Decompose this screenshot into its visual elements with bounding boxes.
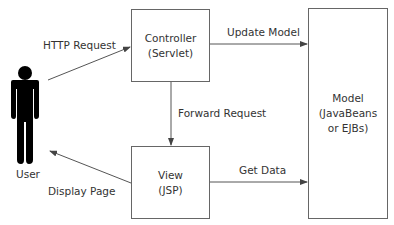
view-subtitle: (JSP) [158,183,183,198]
display-page-label: Display Page [48,185,115,197]
model-box: Model (JavaBeans or EJBs) [308,8,388,219]
model-subtitle-1: (JavaBeans [319,106,378,121]
http-request-arrow [48,47,130,80]
view-box: View (JSP) [131,146,210,219]
controller-box: Controller (Servlet) [131,9,210,82]
http-request-label: HTTP Request [43,39,116,51]
user-label: User [16,168,40,180]
view-title: View [158,168,183,183]
model-title: Model [319,91,378,106]
person-icon [11,66,39,164]
model-subtitle-2: or EJBs) [319,121,378,136]
get-data-label: Get Data [239,164,286,176]
controller-subtitle: (Servlet) [145,46,197,61]
controller-title: Controller [145,31,197,46]
display-page-arrow [50,151,131,183]
mvc-diagram: User Controller (Servlet) View (JSP) Mod… [0,0,394,225]
update-model-label: Update Model [227,26,300,38]
forward-request-label: Forward Request [178,107,266,119]
